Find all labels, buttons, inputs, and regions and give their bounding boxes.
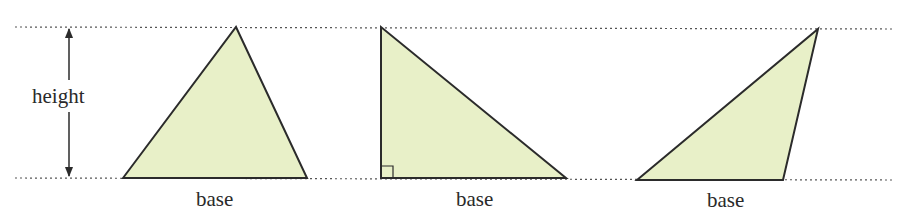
diagram-canvas (0, 0, 904, 209)
top-guide-line (15, 27, 893, 29)
right-triangle (381, 27, 566, 178)
acute-triangle (123, 27, 307, 178)
base-label-3: base (707, 190, 744, 209)
triangle-diagram: height base base base (0, 0, 904, 209)
base-label-1: base (196, 189, 233, 209)
height-label: height (32, 86, 85, 107)
obtuse-triangle (637, 29, 818, 180)
base-label-2: base (456, 189, 493, 209)
